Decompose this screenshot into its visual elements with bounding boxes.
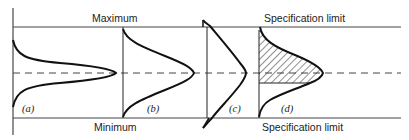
panel-b-label: (b) xyxy=(147,103,160,115)
maximum-label: Maximum xyxy=(92,12,138,24)
diagram: (a) (b) (c) (d) Maximum Minimum Specific… xyxy=(0,0,409,140)
minimum-label: Minimum xyxy=(94,121,137,133)
panel-a-label: (a) xyxy=(22,103,35,115)
curve-d-hatched-region xyxy=(259,27,323,83)
upper-spec-limit-label: Specification limit xyxy=(264,12,345,24)
panel-c-label: (c) xyxy=(229,103,241,115)
lower-spec-limit-label: Specification limit xyxy=(262,121,343,133)
panel-d-label: (d) xyxy=(281,103,294,115)
